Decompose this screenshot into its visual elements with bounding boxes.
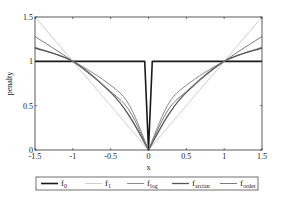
y-tick-label: 1 xyxy=(29,57,33,66)
x-tick-label: 0.5 xyxy=(181,152,191,161)
x-axis-label: x xyxy=(147,163,151,172)
plot-curves xyxy=(35,17,262,150)
x-tick-label: 1.5 xyxy=(257,152,267,161)
y-tick-label: 0 xyxy=(29,146,33,155)
y-tick-label: 0.5 xyxy=(23,102,33,111)
y-tick-label: 1.5 xyxy=(23,13,33,22)
y-axis-label: penalty xyxy=(5,72,14,96)
x-tick-label: -1 xyxy=(69,152,76,161)
legend: f0f1flogfarctanforder xyxy=(36,177,258,190)
curve-f-0 xyxy=(35,61,262,150)
penalty-chart: -1.5-1-0.500.511.5 00.511.5 x penalty f0… xyxy=(0,0,281,203)
x-tick-label: 0 xyxy=(147,152,151,161)
x-tick-label: 1 xyxy=(222,152,226,161)
curve-f-1 xyxy=(35,17,262,150)
plot-frame xyxy=(35,17,262,150)
x-tick-label: -0.5 xyxy=(104,152,117,161)
